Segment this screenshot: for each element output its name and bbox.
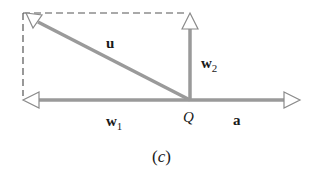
caption-letter: c (158, 147, 166, 166)
vector-w2 (182, 13, 198, 100)
vector-u (26, 13, 190, 100)
vector-w1 (23, 92, 190, 108)
arrowhead-a-icon (284, 92, 300, 108)
vector-a (190, 92, 300, 108)
arrowhead-u-icon (26, 13, 42, 28)
label-w1-main: w (106, 113, 117, 129)
label-w2: w2 (201, 55, 217, 74)
label-w2-subscript: 2 (212, 62, 218, 74)
label-origin-q: Q (183, 109, 194, 125)
arrowhead-w1-icon (23, 92, 39, 108)
label-w1-subscript: 1 (117, 120, 123, 132)
vector-projection-diagram: u w2 w1 Q a (c) (0, 0, 317, 173)
arrowhead-w2-icon (182, 13, 198, 29)
label-a: a (233, 112, 241, 128)
figure-caption: (c) (152, 147, 171, 166)
label-w2-main: w (201, 55, 212, 71)
label-w1: w1 (106, 113, 122, 132)
label-u: u (106, 35, 114, 51)
